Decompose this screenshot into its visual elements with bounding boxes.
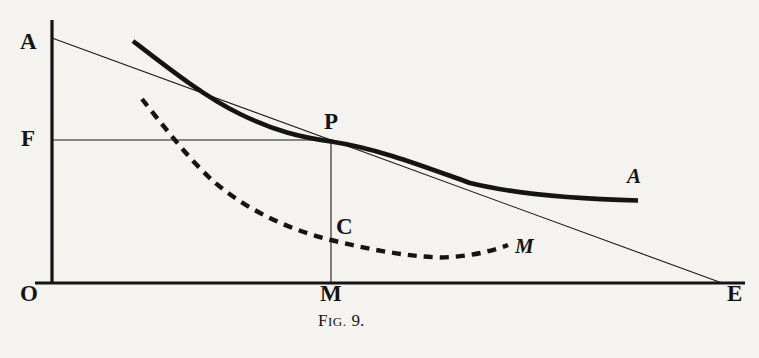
caption-number: 9. [351, 311, 364, 330]
figure-caption: FIG.9. [318, 312, 364, 329]
label-point-p: P [324, 110, 338, 133]
tangent-line-ae [52, 38, 722, 283]
label-abscissa-m: M [320, 282, 342, 305]
label-point-c: C [336, 215, 353, 238]
label-fixed-level-f: F [21, 127, 35, 150]
label-axis-end-e: E [727, 282, 742, 305]
label-curve-marginal-m: M [515, 236, 534, 257]
figure-drawing [0, 0, 759, 358]
caption-prefix: F [318, 311, 328, 330]
label-axis-top-a: A [20, 30, 37, 53]
label-origin-o: O [20, 282, 38, 305]
label-curve-average-a: A [627, 166, 641, 187]
figure-container: A F O P C M E A M FIG.9. [0, 0, 759, 358]
caption-smallcaps: IG. [328, 314, 346, 329]
